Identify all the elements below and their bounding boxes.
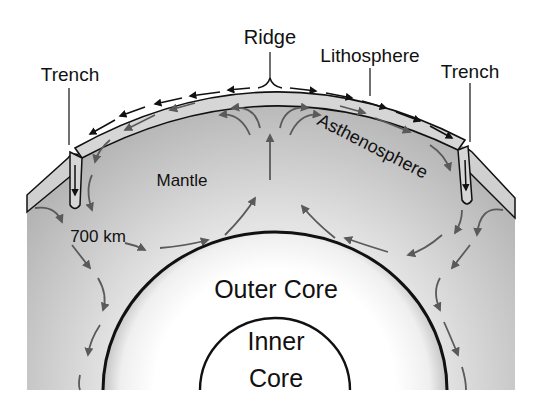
inner-core-label-line2: Core	[249, 364, 303, 392]
outer-core-label: Outer Core	[214, 275, 338, 303]
ridge-notch	[258, 52, 282, 88]
trench-left-label: Trench	[41, 64, 99, 85]
inner-core-label-line1: Inner	[248, 327, 305, 355]
trench-right-label: Trench	[441, 61, 499, 82]
mantle-label: Mantle	[156, 171, 207, 190]
depth-700km-label: 700 km	[70, 227, 126, 246]
ridge-label: Ridge	[244, 26, 296, 48]
subducting-slab-left	[70, 152, 82, 209]
plate-tectonics-diagram: Ridge Lithosphere Trench Trench Asthenos…	[0, 0, 536, 417]
lithosphere-label: Lithosphere	[320, 45, 419, 66]
